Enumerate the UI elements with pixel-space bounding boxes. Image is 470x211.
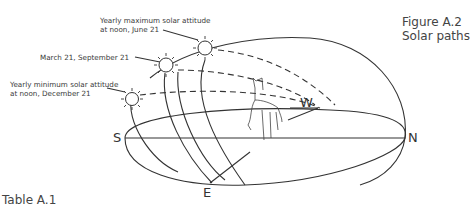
south-label: S <box>113 130 121 145</box>
annotation-equinox: March 21, September 21 <box>40 53 129 62</box>
west-label: W <box>300 95 313 110</box>
figure-title: Solar paths <box>402 29 470 43</box>
summer-dashed-path <box>218 50 335 105</box>
equinox-arc <box>164 73 212 183</box>
winter-arc <box>131 97 178 172</box>
east-label: E <box>203 185 211 200</box>
north-label: N <box>408 130 418 145</box>
table-label: Table A.1 <box>2 193 56 207</box>
figure-number: Figure A.2 <box>402 15 470 29</box>
meridian-dome <box>150 37 405 138</box>
figure-caption: Figure A.2 Solar paths <box>402 15 470 43</box>
annotation-max: Yearly maximum solar attitude at noon, J… <box>100 16 210 34</box>
annotation-min: Yearly minimum solar attitude at noon, D… <box>10 80 118 98</box>
sun-icon-min <box>121 88 143 110</box>
horizon-ellipse <box>125 109 406 185</box>
sun-icon-equinox <box>154 53 178 77</box>
summer-arc <box>201 60 245 185</box>
